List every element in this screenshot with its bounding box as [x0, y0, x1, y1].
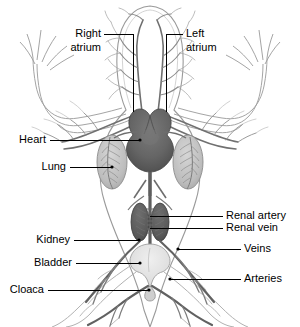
label-heart: Heart: [19, 133, 46, 145]
leader-dot-kidney: [137, 238, 140, 241]
label-lung: Lung: [42, 160, 66, 172]
label-right-atrium-line2: atrium: [70, 41, 101, 53]
label-kidney: Kidney: [36, 233, 70, 245]
renal-vessels: [147, 209, 153, 233]
label-left-atrium-line1: Left: [186, 27, 204, 39]
leader-dot-veins: [176, 247, 179, 250]
label-bladder: Bladder: [34, 256, 72, 268]
diagram-canvas: Right atrium Left atrium Heart Lung Kidn…: [0, 0, 300, 327]
right-kidney: [131, 203, 149, 241]
label-left-atrium-line2: atrium: [186, 41, 217, 53]
label-cloaca: Cloaca: [10, 283, 45, 295]
label-renal-vein: Renal vein: [226, 221, 278, 233]
left-kidney: [151, 203, 169, 241]
frog-circulatory-diagram: Right atrium Left atrium Heart Lung Kidn…: [0, 0, 300, 327]
right-lung: [97, 135, 127, 189]
label-arteries: Arteries: [244, 272, 282, 284]
leader-dot-cloaca: [147, 288, 150, 291]
label-veins: Veins: [244, 242, 271, 254]
left-lung: [173, 135, 203, 189]
head-vessels: [105, 8, 195, 112]
label-renal-artery: Renal artery: [226, 209, 286, 221]
leader-dot-heart: [138, 138, 141, 141]
leader-dot-arteries: [168, 277, 171, 280]
leader-dot-lung: [110, 165, 113, 168]
label-right-atrium-line1: Right: [75, 27, 101, 39]
leader-dot-bladder: [138, 261, 141, 264]
